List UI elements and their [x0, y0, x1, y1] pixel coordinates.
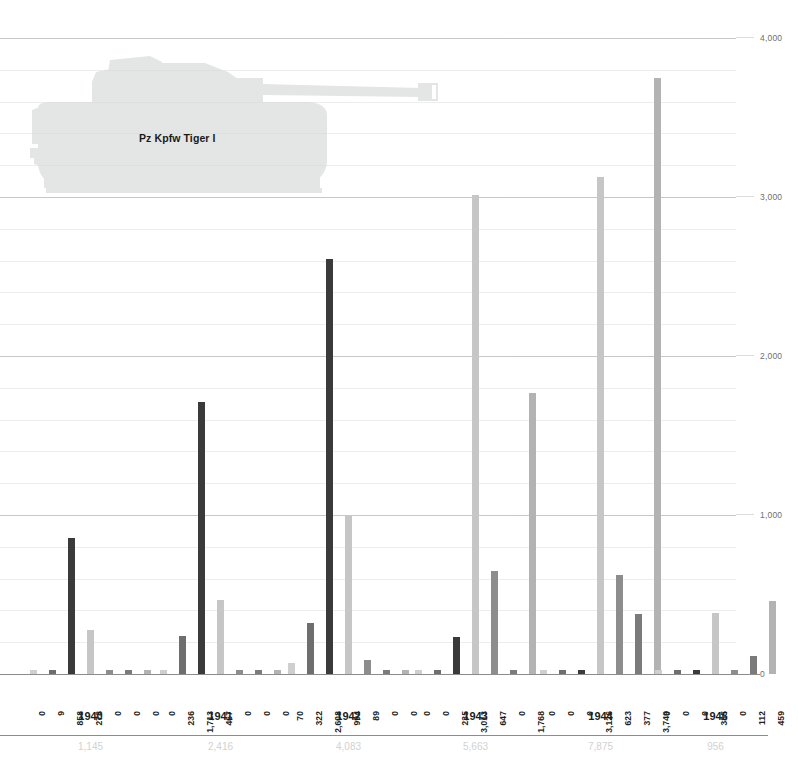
bar[interactable] — [30, 670, 37, 674]
bar[interactable] — [769, 601, 776, 674]
group-total-label: 5,663 — [463, 741, 488, 752]
y-axis-tick-label: 1,000 — [760, 510, 782, 520]
x-axis-year-label: 1941 — [208, 710, 232, 722]
bar-value-label: 459 — [776, 711, 786, 725]
bar[interactable] — [198, 402, 205, 674]
bar[interactable] — [510, 670, 517, 674]
bar[interactable] — [364, 660, 371, 674]
totals-separator — [0, 735, 768, 736]
x-axis-year-label: 1944 — [588, 710, 612, 722]
bar[interactable] — [540, 670, 547, 674]
bar[interactable] — [236, 670, 243, 674]
bar[interactable] — [125, 670, 132, 674]
x-axis-year-labels: 194019411942194319441945 — [0, 710, 736, 730]
bar[interactable] — [288, 663, 295, 674]
bar[interactable] — [383, 670, 390, 674]
bar[interactable] — [274, 670, 281, 674]
bar[interactable] — [750, 656, 757, 674]
bar-group — [160, 0, 293, 675]
bar[interactable] — [434, 670, 441, 674]
bar[interactable] — [255, 670, 262, 674]
group-total-label: 7,875 — [588, 741, 613, 752]
bar[interactable] — [106, 670, 113, 674]
bar[interactable] — [217, 600, 224, 674]
bar-groups — [0, 0, 736, 675]
bar-group — [655, 0, 788, 675]
y-axis-tick-label: 2,000 — [760, 351, 782, 361]
bar[interactable] — [144, 670, 151, 674]
bar-group — [540, 0, 673, 675]
group-total-label: 4,083 — [336, 741, 361, 752]
bar[interactable] — [491, 571, 498, 674]
bar[interactable] — [529, 393, 536, 674]
x-axis-year-label: 1940 — [78, 710, 102, 722]
bar[interactable] — [559, 670, 566, 674]
bar[interactable] — [597, 177, 604, 674]
bar[interactable] — [402, 670, 409, 674]
bar[interactable] — [307, 623, 314, 674]
bar-value-label: 112 — [757, 711, 767, 725]
bar[interactable] — [68, 538, 75, 674]
bar[interactable] — [578, 670, 585, 674]
bar[interactable] — [693, 670, 700, 674]
bar[interactable] — [674, 670, 681, 674]
tiger-production-chart: Pz Kpfw Tiger I 01,0002,0003,0004,000 09… — [0, 0, 798, 777]
bar[interactable] — [179, 636, 186, 674]
bar[interactable] — [326, 259, 333, 674]
group-total-label: 956 — [707, 741, 724, 752]
group-total-labels: 1,1452,4164,0835,6637,875956 — [0, 741, 736, 761]
bar[interactable] — [472, 195, 479, 674]
group-total-label: 2,416 — [208, 741, 233, 752]
bar[interactable] — [49, 670, 56, 674]
y-axis-tick-label: 3,000 — [760, 192, 782, 202]
y-axis-tick-label: 0 — [760, 669, 765, 679]
bar-group — [288, 0, 421, 675]
x-axis-year-label: 1945 — [703, 710, 727, 722]
bar[interactable] — [415, 670, 422, 674]
bar-value-labels: 0985827800002361,713467000703222,6089948… — [0, 677, 736, 713]
bar[interactable] — [712, 613, 719, 674]
bar[interactable] — [453, 637, 460, 674]
y-axis-tick-label: 4,000 — [760, 33, 782, 43]
bar[interactable] — [345, 516, 352, 674]
bar[interactable] — [731, 670, 738, 674]
bar[interactable] — [635, 614, 642, 674]
plot-area — [0, 0, 736, 675]
group-total-label: 1,145 — [78, 741, 103, 752]
bar[interactable] — [616, 575, 623, 674]
bar[interactable] — [160, 670, 167, 674]
x-axis-year-label: 1942 — [336, 710, 360, 722]
bar-group — [30, 0, 163, 675]
bar[interactable] — [655, 670, 662, 674]
bar-group — [415, 0, 548, 675]
bar-value-label: 0 — [738, 711, 748, 716]
bar[interactable] — [87, 630, 94, 674]
x-axis-year-label: 1943 — [463, 710, 487, 722]
